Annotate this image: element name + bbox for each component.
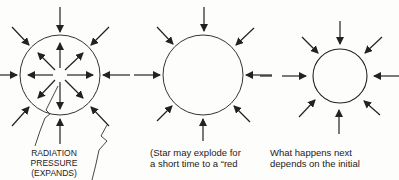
inward-gravity-arrows — [134, 7, 272, 141]
outward-radiation-arrows — [28, 43, 93, 109]
stage-2-caption: (Star may explode for a short time to a … — [150, 147, 241, 169]
label-line: PRESSURE — [27, 158, 81, 168]
caption-line: a short time to a “red — [150, 158, 241, 169]
stage-3-caption: What happens next depends on the initial — [270, 147, 360, 169]
caption-line: (Star may explode for — [150, 147, 241, 158]
stage-3-star — [260, 21, 399, 134]
stage-2-star — [134, 7, 272, 141]
caption-line: What happens next — [270, 147, 360, 158]
caption-line: depends on the initial — [270, 158, 360, 169]
radiation-pressure-label: RADIATION PRESSURE (EXPANDS) — [27, 148, 81, 178]
inward-gravity-arrows — [282, 21, 399, 134]
label-line: RADIATION — [27, 148, 81, 158]
label-line: (EXPANDS) — [27, 168, 81, 178]
inward-gravity-arrows — [0, 7, 130, 144]
stellar-evolution-diagram: RADIATION PRESSURE (EXPANDS) (Star may e… — [0, 0, 399, 180]
